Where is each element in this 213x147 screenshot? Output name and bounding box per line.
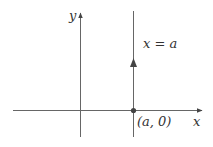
y-axis-label: y xyxy=(68,8,77,23)
x-axis-label: x xyxy=(193,114,201,129)
diagram-canvas: y x x = a (a, 0) xyxy=(0,0,213,147)
point-label: (a, 0) xyxy=(137,114,171,129)
direction-arrow-icon xyxy=(130,58,137,67)
line-label: x = a xyxy=(143,36,177,51)
point-a0 xyxy=(131,108,136,113)
